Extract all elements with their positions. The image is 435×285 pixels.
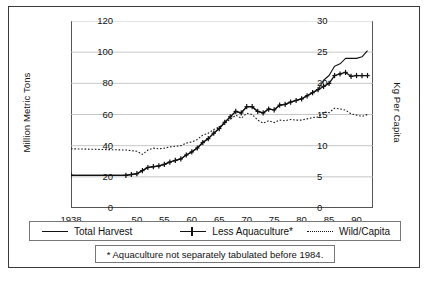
y-axis-right-title: Kg Per Capita: [392, 58, 403, 168]
y-axis-left-tick-label: 0: [79, 203, 113, 213]
y-axis-left-tick-label: 60: [79, 110, 113, 120]
legend-item-wild-per-capita: Wild/Capita: [307, 226, 390, 237]
chart-legend: Total Harvest Less Aquaculture* Wild/Cap…: [29, 221, 401, 241]
legend-label-less-aquaculture: Less Aquaculture*: [212, 226, 293, 237]
legend-swatch-plus-marker-icon: [180, 227, 206, 236]
y-axis-right-tick-label: 20: [317, 78, 351, 88]
y-axis-left-tick-label: 80: [79, 78, 113, 88]
legend-swatch-dotted-line-icon: [307, 227, 333, 236]
legend-item-less-aquaculture: Less Aquaculture*: [180, 226, 293, 237]
y-axis-left-tick-label: 100: [79, 47, 113, 57]
y-axis-right-tick-label: 15: [317, 110, 351, 120]
legend-swatch-solid-line-icon: [42, 227, 68, 236]
y-axis-right-tick-label: 25: [317, 47, 351, 57]
chart-figure: Million Metric Tons Kg Per Capita 020406…: [8, 6, 420, 268]
legend-label-total-harvest: Total Harvest: [74, 226, 132, 237]
legend-item-total-harvest: Total Harvest: [42, 226, 132, 237]
y-axis-left-tick-label: 20: [79, 172, 113, 182]
y-axis-right-tick-label: 30: [317, 16, 351, 26]
y-axis-left-tick-label: 40: [79, 141, 113, 151]
legend-label-wild-per-capita: Wild/Capita: [339, 226, 390, 237]
y-axis-left-title: Million Metric Tons: [21, 58, 32, 168]
y-axis-right-tick-label: 10: [317, 141, 351, 151]
chart-footnote: * Aquaculture not separately tabulated b…: [95, 245, 335, 263]
y-axis-right-tick-label: 5: [317, 172, 351, 182]
y-axis-right-tick-label: 0: [317, 203, 351, 213]
y-axis-left-tick-label: 120: [79, 16, 113, 26]
